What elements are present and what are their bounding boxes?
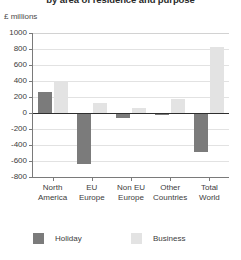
x-axis-tick-label-line: Non EU [111,183,150,193]
y-axis-tick-label: 1000 [9,29,27,37]
chart-title: by area of residence and purpose [0,0,241,5]
y-axis-tick-label: 200 [14,93,27,101]
bar-business [93,103,107,113]
x-axis-tick-label-line: America [33,193,72,203]
legend-item-holiday[interactable]: Holiday [33,233,131,244]
bar-group [111,33,150,177]
bar-holiday [38,92,52,113]
legend-swatch-holiday [33,233,44,244]
x-axis-tick [190,177,229,181]
x-axis-tick-label-line: North [33,183,72,193]
y-axis-tick-label: -400 [11,141,27,149]
zero-gridline [33,113,229,114]
y-axis-tick-label: 600 [14,61,27,69]
x-axis-tick-label: OtherCountries [151,183,190,203]
x-axis-ticks [33,177,229,181]
bar-holiday [194,113,208,152]
x-axis-tick-label: NorthAmerica [33,183,72,203]
plot-area: 10008006004002000-200-400-600-800 [33,33,229,177]
x-axis-tick-label-line: Countries [151,193,190,203]
y-axis-tick-label: 0 [23,109,27,117]
x-axis-tick-label: EUEurope [72,183,111,203]
bar-group [151,33,190,177]
y-axis-tick-label: -200 [11,125,27,133]
x-axis-tick-label: TotalWorld [190,183,229,203]
y-axis-tick-label: 400 [14,77,27,85]
x-axis-tick-label-line: EU [72,183,111,193]
legend-label: Holiday [55,234,82,243]
x-axis-labels: NorthAmericaEUEuropeNon EUEuropeOtherCou… [33,183,229,203]
bar-group [72,33,111,177]
y-axis-tick-label: -600 [11,157,27,165]
y-axis-tick-label: 800 [14,45,27,53]
x-axis-tick-label-line: Total [190,183,229,193]
chart-legend: HolidayBusiness [33,233,229,244]
bar-business [171,99,185,113]
legend-item-business[interactable]: Business [131,233,229,244]
bar-groups [33,33,229,177]
x-axis-tick-label: Non EUEurope [111,183,150,203]
y-axis-tick-label: -800 [11,173,27,181]
bar-holiday [77,113,91,164]
x-axis-tick-label-line: World [190,193,229,203]
x-axis-tick [111,177,150,181]
bar-business [210,47,224,113]
x-axis-tick-label-line: Europe [72,193,111,203]
x-axis-tick-label-line: Other [151,183,190,193]
legend-swatch-business [131,233,142,244]
bar-business [54,81,68,113]
bar-group [33,33,72,177]
x-axis-tick [72,177,111,181]
x-axis-tick [33,177,72,181]
x-axis-tick [151,177,190,181]
legend-label: Business [153,234,185,243]
x-axis-tick-label-line: Europe [111,193,150,203]
y-axis-units-label: £ millions [4,12,37,21]
bar-chart: by area of residence and purpose £ milli… [0,0,241,260]
bar-group [190,33,229,177]
